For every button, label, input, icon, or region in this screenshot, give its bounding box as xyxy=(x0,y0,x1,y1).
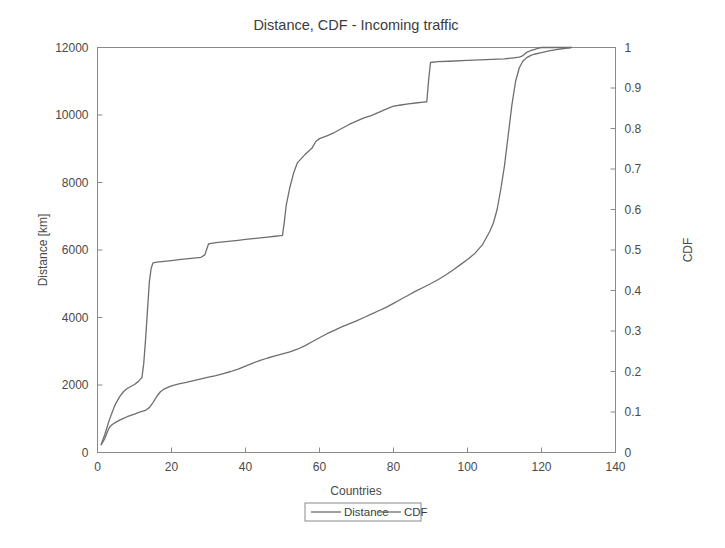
x-tick-label: 40 xyxy=(239,460,253,474)
y-right-tick-label: 0.2 xyxy=(625,365,642,379)
y-axis-left-label: Distance [km] xyxy=(36,214,50,287)
chart-figure: Distance, CDF - Incoming traffic 0204060… xyxy=(0,0,725,548)
x-tick-label: 0 xyxy=(94,460,101,474)
x-tick-label: 60 xyxy=(313,460,327,474)
y-right-tick-label: 0.1 xyxy=(625,405,642,419)
y-right-tick-label: 0.3 xyxy=(625,324,642,338)
y-left-tick-label: 8000 xyxy=(62,176,89,190)
x-tick-label: 100 xyxy=(457,460,477,474)
y-axis-right-label: CDF xyxy=(681,238,695,263)
y-left-tick-label: 4000 xyxy=(62,311,89,325)
y-right-tick-label: 0.9 xyxy=(625,81,642,95)
y-right-tick-label: 0.6 xyxy=(625,203,642,217)
y-right-tick-label: 1 xyxy=(625,41,632,55)
x-tick-label: 20 xyxy=(165,460,179,474)
chart-legend[interactable]: DistanceCDF xyxy=(305,503,428,521)
y-right-tick-label: 0 xyxy=(625,446,632,460)
y-left-tick-label: 6000 xyxy=(62,243,89,257)
y-left-tick-label: 0 xyxy=(82,446,89,460)
x-tick-label: 120 xyxy=(531,460,551,474)
x-tick-label: 80 xyxy=(387,460,401,474)
y-left-tick-label: 2000 xyxy=(62,378,89,392)
y-right-tick-label: 0.8 xyxy=(625,122,642,136)
y-left-tick-label: 12000 xyxy=(55,41,89,55)
x-tick-label: 140 xyxy=(605,460,625,474)
y-right-tick-label: 0.7 xyxy=(625,162,642,176)
y-left-tick-label: 10000 xyxy=(55,108,89,122)
chart-title: Distance, CDF - Incoming traffic xyxy=(253,17,458,33)
y-right-tick-label: 0.5 xyxy=(625,243,642,257)
legend-label-cdf[interactable]: CDF xyxy=(404,506,428,518)
y-right-tick-label: 0.4 xyxy=(625,284,642,298)
x-axis-label: Countries xyxy=(330,484,381,498)
